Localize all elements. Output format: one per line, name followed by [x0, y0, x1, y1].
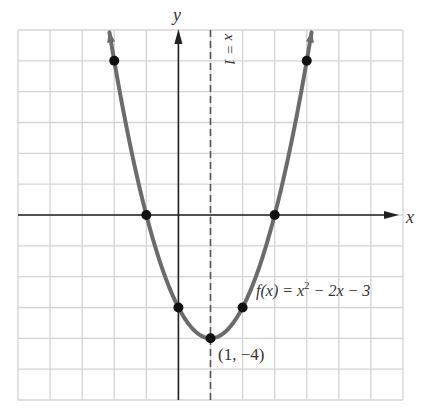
- x-axis-arrow-icon: [384, 211, 399, 219]
- parabola-chart: x y x = 1 (1, −4) f(x) = x2 − 2x − 3: [0, 0, 424, 419]
- data-point: [238, 303, 248, 313]
- data-point: [270, 210, 280, 220]
- function-label-lhs: f(x) = x: [256, 282, 304, 300]
- y-axis-arrow-icon: [174, 29, 182, 44]
- x-axis-label: x: [405, 207, 414, 227]
- y-axis-label: y: [171, 5, 181, 25]
- data-point: [109, 56, 119, 66]
- data-point: [173, 303, 183, 313]
- data-point: [141, 210, 151, 220]
- symmetry-label: x = 1: [222, 33, 238, 66]
- axes: [18, 29, 399, 400]
- data-point: [302, 56, 312, 66]
- function-label-rhs: − 2x − 3: [310, 282, 371, 299]
- vertex-label: (1, −4): [218, 345, 264, 364]
- data-point: [206, 333, 216, 343]
- function-label: f(x) = x2 − 2x − 3: [256, 279, 370, 300]
